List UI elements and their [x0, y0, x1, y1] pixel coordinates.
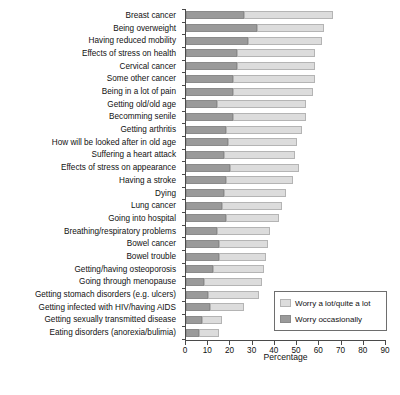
category-label: Breast cancer	[125, 11, 176, 20]
y-axis-tick	[182, 199, 185, 200]
bar-row	[186, 291, 259, 299]
y-axis-tick	[182, 111, 185, 112]
category-label: Getting sexually transmitted disease	[44, 315, 176, 324]
category-label: Going into hospital	[108, 214, 176, 223]
bar-segment-worry-a-lot	[226, 214, 279, 222]
bar-segment-worry-occasionally	[186, 291, 208, 299]
legend-label-worry-a-lot: Worry a lot/quite a lot	[295, 299, 370, 308]
bar-segment-worry-a-lot	[210, 303, 243, 311]
x-axis-tick	[318, 341, 319, 345]
y-axis-tick	[182, 22, 185, 23]
y-axis-tick	[182, 72, 185, 73]
bar-segment-worry-occasionally	[186, 189, 224, 197]
bar-segment-worry-a-lot	[230, 164, 299, 172]
x-axis-line	[185, 340, 386, 341]
bar-row	[186, 49, 315, 57]
bar-segment-worry-a-lot	[222, 202, 282, 210]
bar-row	[186, 11, 333, 19]
legend-swatch-worry-a-lot	[280, 299, 291, 307]
bar-segment-worry-a-lot	[244, 11, 333, 19]
category-label: Effects of stress on appearance	[61, 163, 176, 172]
x-axis-tick	[363, 341, 364, 345]
x-axis-tick	[274, 341, 275, 345]
bar-segment-worry-a-lot	[257, 24, 324, 32]
x-axis-tick	[252, 341, 253, 345]
bar-row	[186, 214, 279, 222]
y-axis-tick	[182, 301, 185, 302]
bar-segment-worry-occasionally	[186, 62, 237, 70]
bar-segment-worry-a-lot	[219, 240, 268, 248]
bar-row	[186, 240, 268, 248]
legend-swatch-worry-occasionally	[280, 315, 291, 323]
y-axis-tick	[182, 85, 185, 86]
y-axis-tick	[182, 34, 185, 35]
y-axis-tick	[182, 237, 185, 238]
y-axis-tick	[182, 225, 185, 226]
bar-segment-worry-occasionally	[186, 316, 202, 324]
bar-segment-worry-a-lot	[228, 138, 297, 146]
y-axis-tick	[182, 288, 185, 289]
bar-segment-worry-occasionally	[186, 227, 217, 235]
y-axis-tick	[182, 123, 185, 124]
bar-segment-worry-a-lot	[219, 253, 266, 261]
bar-row	[186, 316, 222, 324]
bar-row	[186, 88, 313, 96]
category-label: Having reduced mobility	[89, 36, 176, 45]
bar-segment-worry-occasionally	[186, 202, 222, 210]
bar-segment-worry-occasionally	[186, 100, 217, 108]
category-label: Getting/having osteoporosis	[75, 265, 177, 274]
x-axis-tick	[341, 341, 342, 345]
plot-area: 0102030405060708090	[185, 9, 385, 339]
bar-row	[186, 138, 297, 146]
y-axis-tick	[182, 276, 185, 277]
y-axis-tick	[182, 326, 185, 327]
legend-label-worry-occasionally: Worry occasionally	[295, 315, 362, 324]
bar-row	[186, 265, 264, 273]
bar-segment-worry-a-lot	[217, 227, 270, 235]
bar-row	[186, 176, 293, 184]
bar-segment-worry-occasionally	[186, 303, 210, 311]
category-label: Eating disorders (anorexia/bulimia)	[49, 328, 176, 337]
bar-segment-worry-a-lot	[202, 316, 222, 324]
category-label: Getting stomach disorders (e.g. ulcers)	[35, 290, 176, 299]
category-label: Getting old/old age	[107, 100, 176, 109]
bar-row	[186, 227, 270, 235]
bar-row	[186, 113, 306, 121]
y-axis-tick	[182, 187, 185, 188]
y-axis-tick	[182, 47, 185, 48]
bar-segment-worry-occasionally	[186, 214, 226, 222]
bar-segment-worry-a-lot	[237, 62, 315, 70]
y-axis-tick	[182, 314, 185, 315]
x-axis-tick	[185, 341, 186, 345]
y-axis-tick	[182, 60, 185, 61]
y-axis-tick	[182, 136, 185, 137]
category-label: Cervical cancer	[120, 62, 176, 71]
y-axis-tick	[182, 250, 185, 251]
chart-legend: Worry a lot/quite a lot Worry occasional…	[274, 291, 387, 331]
bar-segment-worry-occasionally	[186, 49, 237, 57]
x-axis-title: Percentage	[185, 352, 386, 362]
bar-segment-worry-a-lot	[199, 329, 219, 337]
category-label: Getting arthritis	[120, 125, 176, 134]
bar-row	[186, 303, 244, 311]
legend-item-worry-occasionally: Worry occasionally	[280, 313, 362, 325]
y-axis-tick	[182, 149, 185, 150]
y-axis-tick	[182, 339, 185, 340]
bar-row	[186, 75, 315, 83]
bar-row	[186, 202, 282, 210]
bar-segment-worry-occasionally	[186, 138, 228, 146]
bar-segment-worry-occasionally	[186, 113, 233, 121]
y-axis-tick	[182, 98, 185, 99]
bar-segment-worry-occasionally	[186, 240, 219, 248]
bar-segment-worry-occasionally	[186, 88, 233, 96]
bar-segment-worry-occasionally	[186, 11, 244, 19]
bar-segment-worry-a-lot	[204, 278, 262, 286]
category-label: How will be looked after in old age	[52, 138, 176, 147]
bar-segment-worry-occasionally	[186, 126, 226, 134]
x-axis-tick	[207, 341, 208, 345]
bar-row	[186, 164, 299, 172]
category-label: Becomming senile	[109, 112, 176, 121]
category-label: Dying	[155, 189, 176, 198]
legend-item-worry-a-lot: Worry a lot/quite a lot	[280, 297, 370, 309]
bar-segment-worry-a-lot	[224, 189, 286, 197]
